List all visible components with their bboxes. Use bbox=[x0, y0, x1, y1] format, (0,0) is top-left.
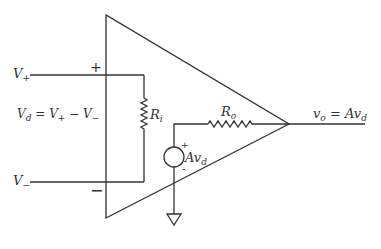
opamp-circuit-diagram bbox=[0, 0, 381, 249]
ri-sub: i bbox=[160, 114, 163, 124]
plus-input-sign: + bbox=[90, 60, 102, 74]
v-plus-sub: + bbox=[22, 73, 30, 83]
ro-sub: o bbox=[231, 111, 236, 121]
ro-main: R bbox=[221, 104, 231, 119]
ground-icon bbox=[167, 214, 181, 225]
out-rhs: Av bbox=[345, 106, 361, 121]
opamp-triangle bbox=[106, 15, 289, 218]
v-minus-main: V bbox=[13, 173, 22, 188]
r-o-wire bbox=[174, 124, 208, 147]
v-minus-label: V− bbox=[13, 174, 30, 190]
vd-eq: = bbox=[31, 107, 49, 121]
r-i-resistor bbox=[141, 75, 147, 182]
vd-t1: V bbox=[49, 107, 58, 121]
vd-t2-sub: − bbox=[92, 113, 100, 123]
out-rhs-sub: d bbox=[361, 113, 367, 123]
dependent-source-icon bbox=[164, 147, 184, 167]
source-sub: d bbox=[201, 157, 207, 167]
source-value-label: Avd bbox=[185, 151, 207, 167]
v-plus-label: V+ bbox=[13, 67, 30, 83]
source-plus-sign: + bbox=[181, 141, 189, 150]
ri-main: R bbox=[150, 107, 160, 122]
v-d-equation: Vd = V+ − V− bbox=[17, 108, 99, 123]
v-minus-sub: − bbox=[22, 180, 30, 190]
r-o-label: Ro bbox=[221, 105, 236, 121]
minus-input-sign: − bbox=[90, 183, 103, 199]
output-label: vo = Avd bbox=[313, 107, 367, 123]
vd-lhs: V bbox=[17, 107, 26, 121]
out-eq: = bbox=[326, 106, 345, 121]
v-plus-main: V bbox=[13, 66, 22, 81]
source-main: Av bbox=[185, 150, 201, 165]
r-i-label: Ri bbox=[150, 108, 163, 124]
vd-t2: V bbox=[83, 107, 92, 121]
r-o-resistor bbox=[208, 121, 289, 127]
vd-minus: − bbox=[65, 107, 83, 121]
